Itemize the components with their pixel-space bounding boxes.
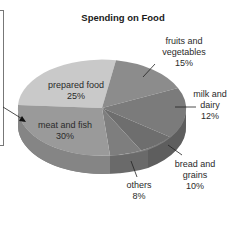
- label-fruits-vegetables: fruits and vegetables 15%: [144, 36, 224, 69]
- label-others: others 8%: [118, 180, 160, 202]
- label-milk-dairy: milk and dairy 12%: [186, 89, 234, 122]
- label-prepared-food: prepared food 25%: [36, 80, 116, 102]
- label-meat-fish: meat and fish 30%: [30, 120, 100, 142]
- label-bread-grains: bread and grains 10%: [165, 159, 225, 192]
